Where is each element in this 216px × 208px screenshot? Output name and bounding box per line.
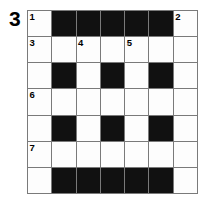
puzzle-number-label: 3	[4, 6, 25, 32]
crossword-block-cell	[52, 168, 75, 193]
crossword-open-cell[interactable]: 4	[77, 37, 100, 62]
crossword-open-cell[interactable]	[174, 37, 197, 62]
crossword-open-cell[interactable]	[149, 37, 172, 62]
crossword-block-cell	[77, 168, 100, 193]
cell-number: 7	[30, 142, 35, 153]
crossword-open-cell[interactable]	[174, 116, 197, 141]
crossword-open-cell[interactable]	[28, 116, 51, 141]
crossword-open-cell[interactable]	[125, 89, 148, 114]
cell-number: 6	[30, 89, 35, 100]
crossword-block-cell	[149, 63, 172, 88]
crossword-open-cell[interactable]: 5	[125, 37, 148, 62]
crossword-open-cell[interactable]	[52, 89, 75, 114]
crossword-block-cell	[101, 168, 124, 193]
crossword-open-cell[interactable]	[174, 63, 197, 88]
crossword-open-cell[interactable]: 6	[28, 89, 51, 114]
crossword-block-cell	[52, 116, 75, 141]
crossword-open-cell[interactable]	[28, 63, 51, 88]
crossword-grid: 1234567	[27, 10, 198, 194]
crossword-block-cell	[101, 11, 124, 36]
crossword-open-cell[interactable]	[174, 89, 197, 114]
crossword-block-cell	[125, 168, 148, 193]
crossword-block-cell	[101, 116, 124, 141]
crossword-open-cell[interactable]	[77, 63, 100, 88]
crossword-open-cell[interactable]	[174, 168, 197, 193]
crossword-open-cell[interactable]	[125, 116, 148, 141]
crossword-open-cell[interactable]	[52, 37, 75, 62]
cell-number: 1	[30, 11, 35, 22]
crossword-open-cell[interactable]: 1	[28, 11, 51, 36]
crossword-open-cell[interactable]	[77, 89, 100, 114]
crossword-block-cell	[77, 11, 100, 36]
cell-number: 5	[127, 37, 132, 48]
cell-number: 4	[78, 37, 83, 48]
crossword-block-cell	[149, 168, 172, 193]
crossword-open-cell[interactable]	[149, 89, 172, 114]
crossword-block-cell	[52, 11, 75, 36]
crossword-open-cell[interactable]	[28, 168, 51, 193]
crossword-block-cell	[149, 11, 172, 36]
crossword-open-cell[interactable]	[125, 142, 148, 167]
crossword-block-cell	[101, 63, 124, 88]
crossword-open-cell[interactable]	[125, 63, 148, 88]
crossword-open-cell[interactable]	[77, 142, 100, 167]
crossword-open-cell[interactable]	[52, 142, 75, 167]
crossword-block-cell	[125, 11, 148, 36]
crossword-open-cell[interactable]	[174, 142, 197, 167]
crossword-open-cell[interactable]	[101, 37, 124, 62]
crossword-open-cell[interactable]	[77, 116, 100, 141]
crossword-open-cell[interactable]	[101, 142, 124, 167]
cell-number: 3	[30, 37, 35, 48]
crossword-open-cell[interactable]	[149, 142, 172, 167]
crossword-open-cell[interactable]: 2	[174, 11, 197, 36]
crossword-open-cell[interactable]: 3	[28, 37, 51, 62]
crossword-block-cell	[52, 63, 75, 88]
cell-number: 2	[175, 11, 180, 22]
crossword-open-cell[interactable]	[101, 89, 124, 114]
crossword-open-cell[interactable]: 7	[28, 142, 51, 167]
crossword-block-cell	[149, 116, 172, 141]
